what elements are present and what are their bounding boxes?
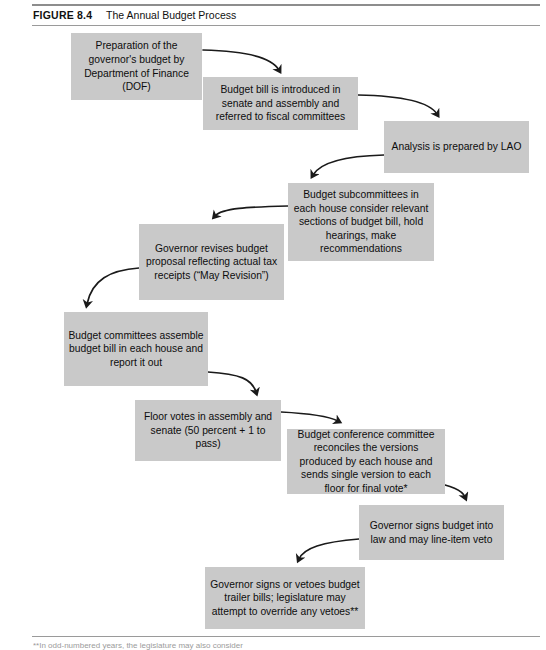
preparation-of-governors-budget-box: Preparation of the governor's budget by … <box>71 33 202 100</box>
flow-step-label: Preparation of the governor's budget by … <box>75 39 198 93</box>
arrow-step1-to-step2 <box>203 50 279 70</box>
governor-signs-or-vetoes-trailer-bills-box: Governor signs or vetoes budget trailer … <box>205 567 365 629</box>
arrow-step2-to-step3 <box>358 95 437 114</box>
footnote-partial-text: **In odd-numbered years, the legislature… <box>33 641 363 650</box>
figure-caption: FIGURE 8.4 The Annual Budget Process <box>33 8 236 22</box>
arrow-step7-to-step8 <box>281 412 338 421</box>
flow-step-label: Budget committees assemble budget bill i… <box>68 329 204 370</box>
figure-container: FIGURE 8.4 The Annual Budget Process Pre… <box>0 0 546 650</box>
arrow-step6-to-step7 <box>208 372 256 392</box>
governor-revises-budget-box: Governor revises budget proposal reflect… <box>139 224 284 300</box>
flow-step-label: Governor revises budget proposal reflect… <box>143 242 280 283</box>
figure-number-label: FIGURE 8.4 <box>33 9 92 21</box>
governor-signs-budget-box: Governor signs budget into law and may l… <box>359 505 504 560</box>
budget-bill-introduced-box: Budget bill is introduced in senate and … <box>203 77 358 130</box>
budget-subcommittees-box: Budget subcommittees in each house consi… <box>288 183 434 261</box>
budget-conference-committee-box: Budget conference committee reconciles t… <box>287 429 445 494</box>
budget-committees-assemble-box: Budget committees assemble budget bill i… <box>64 312 208 386</box>
floor-votes-box: Floor votes in assembly and senate (50 p… <box>135 400 281 461</box>
flow-step-label: Analysis is prepared by LAO <box>388 140 525 154</box>
flow-step-label: Budget conference committee reconciles t… <box>291 428 441 496</box>
bottom-divider-rule <box>32 636 540 637</box>
arrow-step9-to-step10 <box>299 539 359 559</box>
caption-divider-rule <box>32 25 540 26</box>
flow-step-label: Budget subcommittees in each house consi… <box>292 188 430 256</box>
flow-step-label: Governor signs or vetoes budget trailer … <box>209 578 361 619</box>
lao-analysis-box: Analysis is prepared by LAO <box>384 121 529 173</box>
figure-title: The Annual Budget Process <box>106 9 236 21</box>
flow-step-label: Floor votes in assembly and senate (50 p… <box>139 410 277 451</box>
arrow-step5-to-step6 <box>87 268 139 304</box>
flow-step-label: Budget bill is introduced in senate and … <box>207 83 354 124</box>
arrow-step3-to-step4 <box>313 155 384 175</box>
arrow-step4-to-step5 <box>215 206 288 216</box>
flow-step-label: Governor signs budget into law and may l… <box>363 519 500 546</box>
top-divider-rule <box>32 4 540 6</box>
